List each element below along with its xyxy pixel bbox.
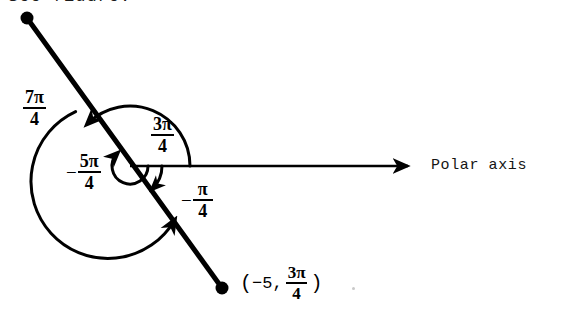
fraction-denominator: 4 — [156, 136, 169, 155]
fraction-numerator: 7π — [23, 88, 46, 107]
fraction-numerator: π — [196, 180, 210, 199]
label-seven-pi-over-four: 7π 4 — [22, 88, 46, 128]
label-neg-pi-over-four: − π 4 — [181, 180, 213, 220]
close-paren: ) — [310, 272, 322, 295]
fraction-three-pi-over-four: 3π 4 — [151, 115, 174, 155]
fraction-seven-pi-over-four: 7π 4 — [23, 88, 46, 128]
arc-three-pi-over-four — [88, 106, 190, 166]
label-three-pi-over-four: 3π 4 — [150, 115, 174, 155]
polar-coordinate-figure: See figure. — [0, 0, 561, 310]
fraction-numerator: 3π — [286, 264, 308, 282]
scan-speck — [352, 287, 355, 290]
fraction-numerator: 3π — [151, 115, 174, 134]
point-coordinate-label: ( −5, 3π 4 ) — [240, 264, 322, 302]
fraction-point-theta: 3π 4 — [286, 264, 308, 302]
plotted-point-dot — [216, 282, 229, 295]
arc-neg-pi-over-four — [153, 166, 162, 189]
point-radius-value: −5, — [252, 274, 283, 293]
fraction-denominator: 4 — [28, 109, 41, 128]
fraction-denominator: 4 — [290, 284, 303, 302]
polar-axis-label: Polar axis — [431, 157, 527, 174]
label-neg-pi-over-four-sign: − — [181, 191, 192, 210]
terminal-ray-upper-endpoint-dot — [21, 12, 34, 25]
label-neg-five-pi-over-four: − 5π 4 — [66, 152, 101, 192]
terminal-ray-line — [27, 18, 222, 288]
fraction-denominator: 4 — [83, 173, 96, 192]
fraction-numerator: 5π — [78, 152, 101, 171]
label-neg-five-pi-over-four-sign: − — [66, 163, 77, 182]
fraction-neg-pi-over-four: π 4 — [193, 180, 213, 220]
open-paren: ( — [240, 272, 252, 295]
fraction-neg-five-pi-over-four: 5π 4 — [78, 152, 101, 192]
fraction-denominator: 4 — [196, 201, 209, 220]
